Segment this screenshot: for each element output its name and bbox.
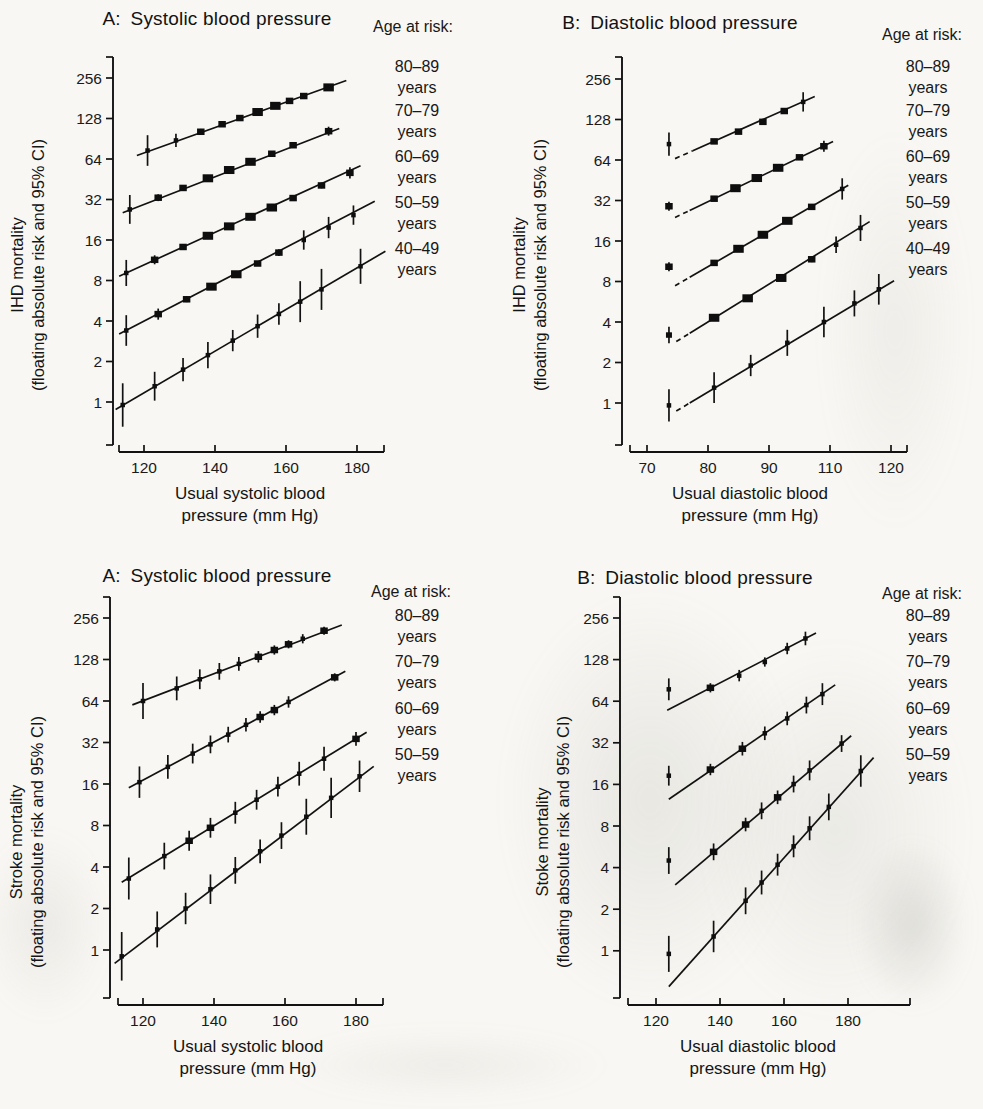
age-legend-title: Age at risk: [882, 26, 962, 44]
legend-item: 50–59years [863, 744, 983, 786]
legend-item: 40–49years [352, 238, 482, 280]
panel-title: A: Systolic blood pressure [57, 565, 377, 587]
legend-item: 50–59years [863, 192, 983, 234]
legend-range: 70–79 [352, 100, 482, 121]
y-axis-label: Stoke mortality (floating absolute risk … [532, 642, 574, 1042]
legend-range: 40–49 [863, 238, 983, 259]
legend-unit: years [863, 765, 983, 786]
x-axis-label-line1: Usual diastolic blood [650, 483, 850, 505]
svg-text:32: 32 [85, 191, 102, 208]
x-axis-label-line1: Usual systolic blood [148, 1036, 348, 1058]
legend-range: 40–49 [352, 238, 482, 259]
svg-text:1: 1 [93, 394, 102, 411]
age-legend: Age at risk: 80–89years 70–79years 60–69… [352, 555, 482, 855]
legend-range: 50–59 [352, 192, 482, 213]
legend-unit: years [352, 765, 482, 786]
svg-text:110: 110 [818, 459, 843, 476]
legend-item: 80–89years [863, 605, 983, 647]
svg-text:2: 2 [600, 901, 609, 918]
legend-range: 80–89 [863, 605, 983, 626]
svg-text:32: 32 [82, 734, 99, 751]
panel-stroke-diastolic: 2561286432168421120140160180 B: Diastoli… [485, 555, 970, 1109]
legend-range: 50–59 [863, 192, 983, 213]
svg-text:4: 4 [93, 313, 102, 330]
legend-unit: years [352, 719, 482, 740]
x-axis-label: Usual diastolic blood pressure (mm Hg) [650, 483, 850, 527]
svg-text:32: 32 [592, 734, 609, 751]
svg-text:160: 160 [272, 1012, 298, 1029]
svg-text:8: 8 [93, 272, 102, 289]
svg-text:64: 64 [592, 693, 610, 710]
svg-text:140: 140 [201, 1012, 227, 1029]
svg-text:120: 120 [131, 459, 157, 476]
age-legend-title: Age at risk: [882, 585, 962, 603]
legend-item: 60–69years [352, 146, 482, 188]
svg-text:120: 120 [643, 1012, 669, 1029]
y-axis-label-line2: (floating absolute risk and 95% CI) [553, 642, 574, 1042]
svg-text:2: 2 [602, 354, 611, 371]
legend-unit: years [863, 259, 983, 280]
svg-text:256: 256 [76, 70, 102, 87]
y-axis-label: IHD mortality (floating absolute risk an… [7, 65, 49, 465]
svg-text:1: 1 [600, 942, 609, 959]
svg-text:256: 256 [583, 610, 609, 627]
svg-text:90: 90 [760, 459, 778, 476]
svg-text:160: 160 [771, 1012, 797, 1029]
svg-text:160: 160 [273, 459, 299, 476]
legend-item: 60–69years [863, 146, 983, 188]
panel-stroke-systolic: 2561286432168421120140160180 A: Systolic… [0, 555, 485, 1109]
legend-unit: years [352, 626, 482, 647]
x-axis-label-line2: pressure (mm Hg) [658, 1058, 858, 1080]
svg-text:140: 140 [707, 1012, 733, 1029]
legend-range: 70–79 [863, 651, 983, 672]
x-axis-label-line2: pressure (mm Hg) [650, 505, 850, 527]
svg-text:128: 128 [73, 651, 99, 668]
svg-text:64: 64 [82, 693, 100, 710]
legend-item: 80–89years [863, 56, 983, 98]
svg-text:128: 128 [583, 651, 609, 668]
x-axis-label: Usual diastolic blood pressure (mm Hg) [658, 1036, 858, 1080]
svg-text:8: 8 [602, 273, 611, 290]
svg-text:180: 180 [344, 459, 370, 476]
panel-title: B: Diastolic blood pressure [505, 12, 855, 34]
svg-text:180: 180 [835, 1012, 861, 1029]
x-axis-label-line1: Usual systolic blood [150, 483, 350, 505]
legend-item: 40–49years [863, 238, 983, 280]
y-axis-label-line2: (floating absolute risk and 95% CI) [530, 65, 551, 465]
legend-item: 70–79years [352, 100, 482, 142]
age-legend: Age at risk: 80–89years 70–79years 60–69… [863, 555, 983, 855]
legend-range: 80–89 [863, 56, 983, 77]
x-axis-label-line2: pressure (mm Hg) [150, 505, 350, 527]
x-axis-label: Usual systolic blood pressure (mm Hg) [148, 1036, 348, 1080]
svg-text:70: 70 [638, 459, 656, 476]
x-axis-label-line2: pressure (mm Hg) [148, 1058, 348, 1080]
svg-text:2: 2 [90, 900, 99, 917]
svg-text:128: 128 [76, 110, 102, 127]
svg-text:256: 256 [73, 610, 99, 627]
svg-text:4: 4 [90, 859, 99, 876]
legend-unit: years [863, 672, 983, 693]
age-legend: Age at risk: 80–89years 70–79years 60–69… [352, 0, 482, 300]
legend-unit: years [863, 719, 983, 740]
legend-unit: years [352, 167, 482, 188]
svg-text:180: 180 [343, 1012, 369, 1029]
svg-text:1: 1 [90, 942, 99, 959]
svg-text:1: 1 [602, 395, 611, 412]
svg-text:256: 256 [585, 71, 611, 88]
legend-item: 50–59years [352, 744, 482, 786]
legend-unit: years [863, 121, 983, 142]
legend-range: 50–59 [352, 744, 482, 765]
legend-item: 60–69years [352, 698, 482, 740]
y-axis-label-line2: (floating absolute risk and 95% CI) [27, 642, 48, 1042]
legend-item: 80–89years [352, 56, 482, 98]
y-axis-label-line1: Stroke mortality [6, 642, 27, 1042]
age-legend: Age at risk: 80–89years 70–79years 60–69… [863, 0, 983, 300]
y-axis-label-line2: (floating absolute risk and 95% CI) [28, 65, 49, 465]
svg-text:16: 16 [592, 776, 609, 793]
svg-text:140: 140 [202, 459, 228, 476]
svg-text:64: 64 [594, 152, 612, 169]
panel-ihd-diastolic: 2561286432168421708090110120 B: Diastoli… [485, 0, 970, 554]
svg-text:8: 8 [90, 817, 99, 834]
panel-ihd-systolic: 2561286432168421120140160180 A: Systolic… [0, 0, 485, 554]
